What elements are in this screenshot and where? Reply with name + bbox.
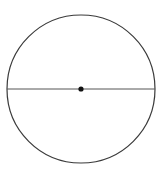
center-point xyxy=(78,86,83,91)
circle-diagram xyxy=(0,0,164,174)
